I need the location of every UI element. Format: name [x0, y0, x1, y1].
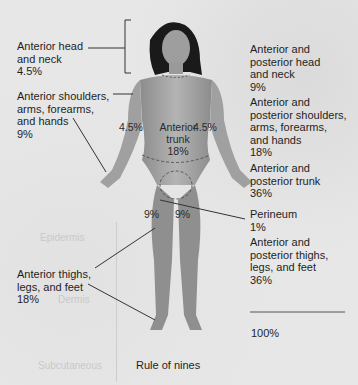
body-label-left-arm: 4.5% — [119, 121, 143, 133]
body-label-right-thigh: 9% — [175, 208, 190, 220]
label-anterior-head-neck: Anterior head and neck 4.5% — [17, 40, 83, 78]
body-label-right-arm: 4.5% — [193, 121, 217, 133]
label-perineum: Perineum 1% — [250, 208, 297, 233]
label-anterior-thighs-legs: Anterior thighs, legs, and feet 18% — [17, 268, 91, 306]
label-ant-post-thighs-legs: Anterior and posterior thighs, legs, and… — [250, 236, 328, 286]
label-total: 100% — [251, 327, 279, 340]
label-ant-post-head-neck: Anterior and posterior head and neck 9% — [250, 43, 320, 93]
label-ant-post-trunk: Anterior and posterior trunk 36% — [250, 162, 320, 200]
label-ant-post-shoulders-arms: Anterior and posterior shoulders, arms, … — [250, 96, 347, 159]
label-anterior-shoulders-arms: Anterior shoulders, arms, forearms, and … — [17, 90, 109, 140]
diagram-caption: Rule of nines — [136, 359, 200, 371]
body-label-left-thigh: 9% — [144, 208, 159, 220]
